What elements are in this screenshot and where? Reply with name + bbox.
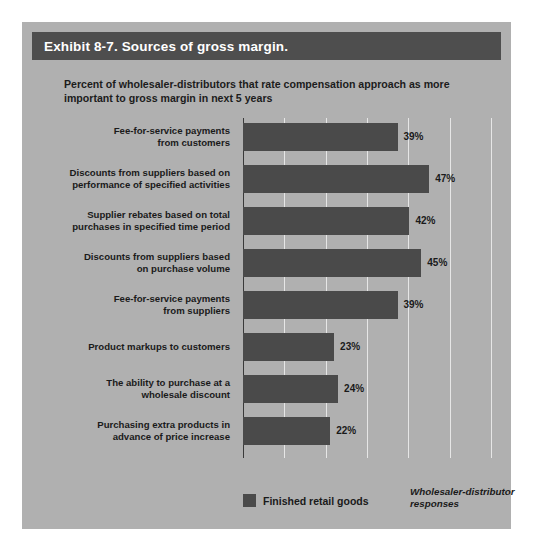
legend-swatch-finished-retail-goods [243, 494, 256, 507]
exhibit-card: Exhibit 8-7. Sources of gross margin. Pe… [22, 22, 511, 529]
bar [243, 207, 409, 235]
bar-value-label: 24% [344, 383, 364, 394]
chart-subtitle: Percent of wholesaler-distributors that … [64, 78, 484, 105]
bar [243, 375, 338, 403]
bar-track: 39% [243, 118, 424, 155]
bar-row: Supplier rebates based on totalpurchases… [32, 202, 501, 239]
category-label: Fee-for-service paymentsfrom customers [32, 125, 230, 149]
bar-value-label: 23% [340, 341, 360, 352]
category-label: Fee-for-service paymentsfrom suppliers [32, 293, 230, 317]
bar-track: 39% [243, 286, 424, 323]
category-label: The ability to purchase at awholesale di… [32, 377, 230, 401]
bar-value-label: 47% [435, 173, 455, 184]
bar-value-label: 45% [427, 257, 447, 268]
category-label: Product markups to customers [32, 341, 230, 353]
category-label: Purchasing extra products inadvance of p… [32, 419, 230, 443]
bar [243, 291, 398, 319]
bar-rows: Fee-for-service paymentsfrom customers39… [32, 118, 501, 458]
axis-note: Wholesaler-distributor responses [410, 486, 520, 510]
bar [243, 249, 421, 277]
bar-row: Discounts from suppliers based onperform… [32, 160, 501, 197]
bar-row: Discounts from suppliers basedon purchas… [32, 244, 501, 281]
bar-track: 22% [243, 412, 356, 449]
bar-row: Purchasing extra products inadvance of p… [32, 412, 501, 449]
bar-value-label: 39% [404, 131, 424, 142]
bar [243, 165, 429, 193]
category-label: Supplier rebates based on totalpurchases… [32, 209, 230, 233]
bar-value-label: 22% [336, 425, 356, 436]
bar-track: 45% [243, 244, 447, 281]
exhibit-title: Exhibit 8-7. Sources of gross margin. [32, 39, 288, 54]
bar [243, 123, 398, 151]
bar [243, 333, 334, 361]
bar-row: Product markups to customers23% [32, 328, 501, 365]
bar-row: The ability to purchase at awholesale di… [32, 370, 501, 407]
category-label: Discounts from suppliers basedon purchas… [32, 251, 230, 275]
bar-track: 23% [243, 328, 360, 365]
bar-value-label: 42% [415, 215, 435, 226]
legend-label: Finished retail goods [263, 495, 369, 507]
bar-track: 47% [243, 160, 455, 197]
bar-row: Fee-for-service paymentsfrom suppliers39… [32, 286, 501, 323]
bar [243, 417, 330, 445]
bar-row: Fee-for-service paymentsfrom customers39… [32, 118, 501, 155]
bar-value-label: 39% [404, 299, 424, 310]
category-label: Discounts from suppliers based onperform… [32, 167, 230, 191]
chart-legend: Finished retail goods [243, 494, 369, 507]
plot-area: Fee-for-service paymentsfrom customers39… [32, 118, 501, 458]
bar-track: 42% [243, 202, 435, 239]
bar-track: 24% [243, 370, 364, 407]
exhibit-header: Exhibit 8-7. Sources of gross margin. [32, 32, 501, 60]
